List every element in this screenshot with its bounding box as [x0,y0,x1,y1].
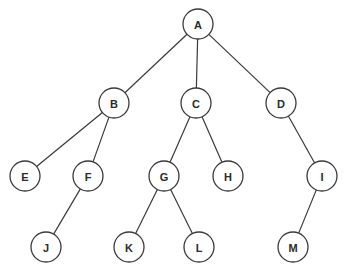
edge-i-m [299,190,317,233]
edge-c-g [170,117,190,163]
node-label: J [43,242,49,254]
edge-c-h [202,117,222,163]
node-label: I [320,171,323,183]
edge-f-j [54,189,81,234]
edge-g-k [136,189,158,233]
edge-g-l [171,189,193,233]
node-label: D [277,98,285,110]
node-label: E [21,171,28,183]
node-label: K [125,242,133,254]
node-label: F [85,171,92,183]
node-label: L [196,242,203,254]
edge-a-c [196,39,197,88]
edge-b-f [93,117,109,162]
node-l: L [184,232,214,262]
node-e: E [10,161,40,191]
node-b: B [99,88,129,118]
node-label: M [288,242,297,254]
node-label: G [160,171,169,183]
node-label: B [110,98,118,110]
node-h: H [213,161,243,191]
node-i: I [307,161,337,191]
node-label: A [194,19,202,31]
node-label: C [192,98,200,110]
edge-b-e [37,113,103,167]
edge-d-i [288,116,314,163]
node-a: A [183,9,213,39]
node-label: H [224,171,232,183]
edge-a-d [209,34,270,92]
edge-a-b [125,34,187,92]
node-c: C [181,88,211,118]
node-f: F [73,161,103,191]
node-d: D [266,88,296,118]
tree-diagram: ABCDEFGHIJKLM [0,0,348,274]
edges-layer [37,34,317,234]
node-m: M [278,232,308,262]
node-g: G [149,161,179,191]
node-j: J [31,232,61,262]
node-k: K [114,232,144,262]
